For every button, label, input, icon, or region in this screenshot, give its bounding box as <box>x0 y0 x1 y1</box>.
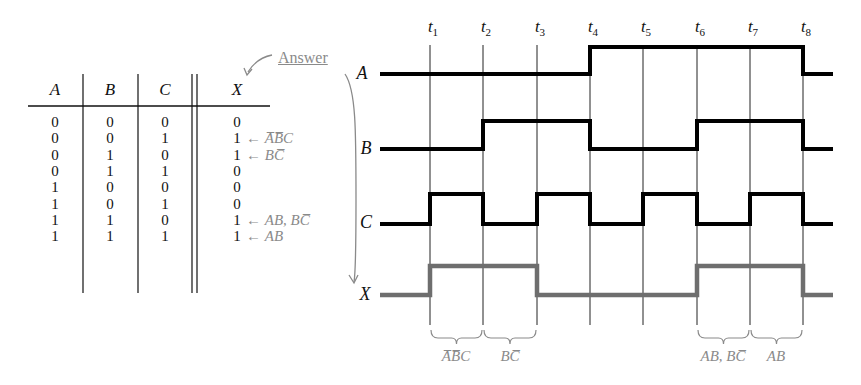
brace-t1-t2-icon <box>431 330 482 344</box>
timing-diagram <box>0 0 861 385</box>
answer-arrow-to-waveform-icon <box>345 74 356 282</box>
waveform-b <box>380 121 833 149</box>
waveform-c <box>380 194 833 224</box>
waveform-a <box>380 47 833 74</box>
waveform-x <box>380 266 833 295</box>
brace-t6-t7-icon <box>698 330 749 344</box>
brace-t7-t8-icon <box>751 330 802 344</box>
arrowhead-icon <box>349 275 358 283</box>
brace-t2-t3-icon <box>484 330 536 344</box>
